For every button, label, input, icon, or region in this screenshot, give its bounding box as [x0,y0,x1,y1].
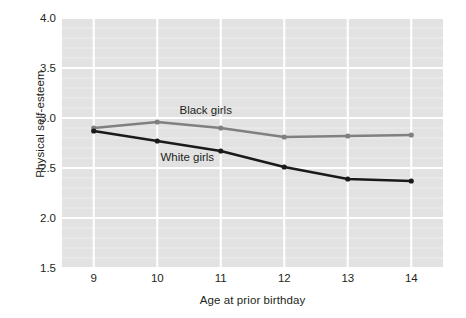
major-gridlines-vertical [94,18,412,268]
plot-canvas [62,18,443,268]
x-axis-tick-label: 13 [328,272,368,284]
chart-figure: Physical self-esteem 1.52.02.53.03.54.0 … [0,0,466,318]
data-point [282,134,287,139]
y-axis-tick-label: 3.0 [8,112,56,124]
y-axis-tick-label: 2.0 [8,212,56,224]
series-label-black-girls: Black girls [180,104,232,116]
y-axis-tick-labels: 1.52.02.53.03.54.0 [0,0,56,318]
y-axis-tick-label: 4.0 [8,12,56,24]
data-point [282,164,287,169]
data-point [409,132,414,137]
minor-gridlines [62,18,443,268]
data-point [345,133,350,138]
x-axis-tick-label: 14 [391,272,431,284]
x-axis-tick-label: 11 [201,272,241,284]
data-point [218,148,223,153]
series-black-girls [91,119,414,139]
data-point [155,138,160,143]
x-axis-tick-label: 9 [74,272,114,284]
x-axis-tick-label: 12 [264,272,304,284]
series-line [94,131,412,181]
y-axis-tick-label: 3.5 [8,62,56,74]
x-axis-title: Age at prior birthday [62,294,443,306]
x-axis-tick-label: 10 [137,272,177,284]
data-point [409,178,414,183]
data-point [91,128,96,133]
major-gridlines-horizontal [62,18,443,268]
data-point [345,176,350,181]
y-axis-tick-label: 1.5 [8,262,56,274]
series-line [94,122,412,137]
data-point [218,125,223,130]
plot-area: Black girls White girls [62,18,443,268]
y-axis-tick-label: 2.5 [8,162,56,174]
series-label-white-girls: White girls [160,151,214,163]
data-point [155,119,160,124]
